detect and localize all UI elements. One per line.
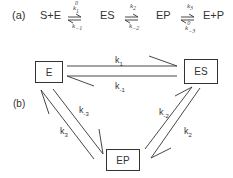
reaction-arrows	[0, 0, 233, 178]
